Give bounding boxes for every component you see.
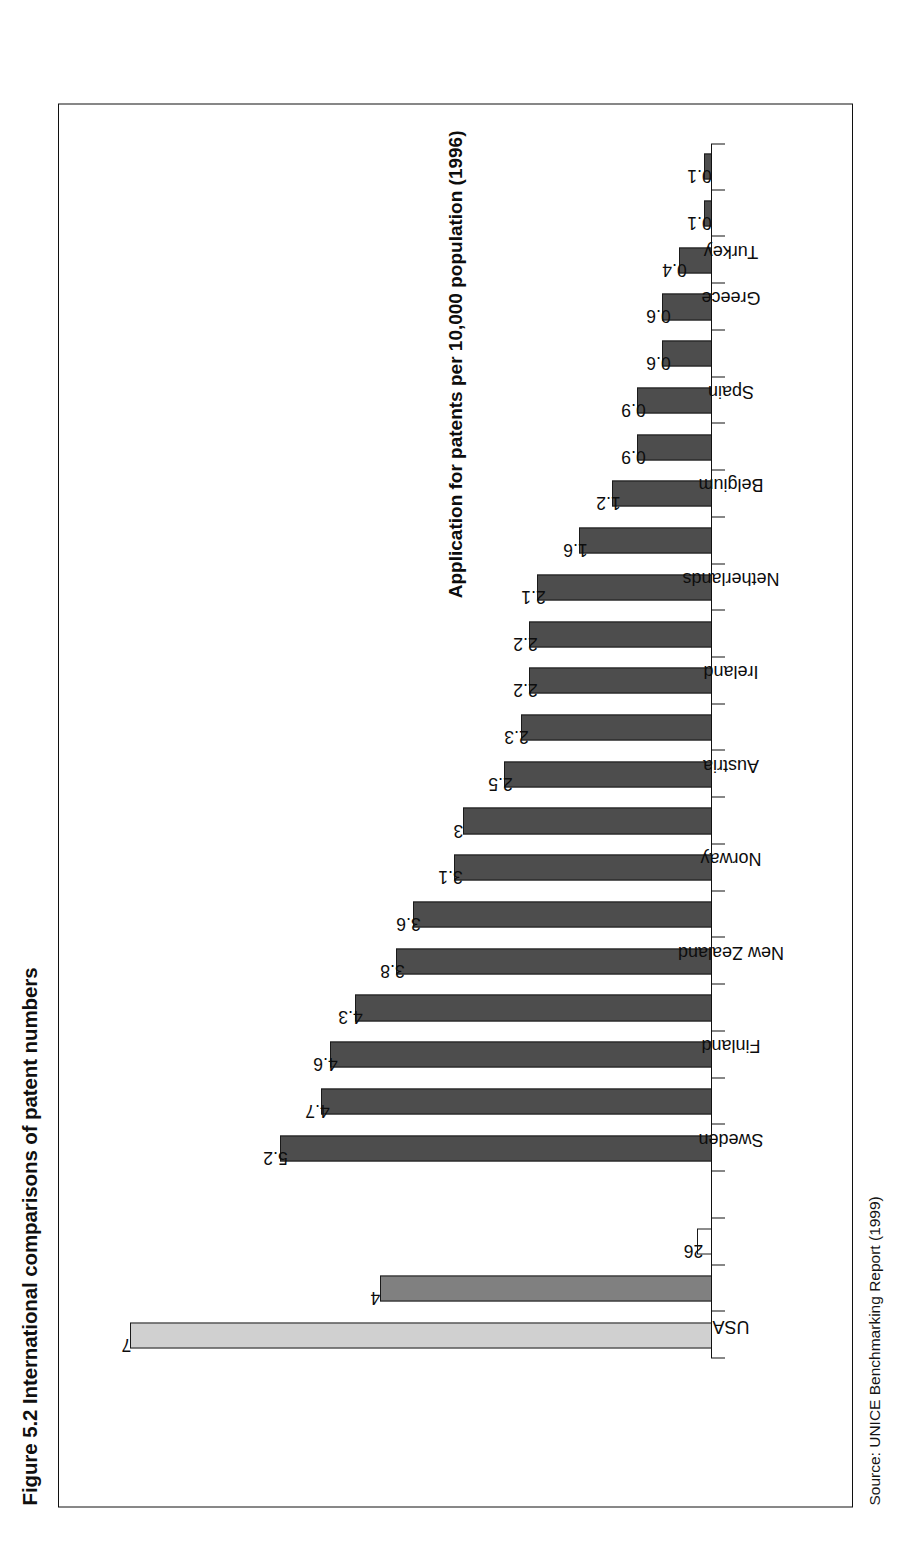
bar-value-label: 4.6 <box>314 1054 338 1072</box>
x-axis-ticks <box>712 143 726 1358</box>
category-label: New Zealand <box>678 943 784 961</box>
category-label: Belgium <box>698 475 763 493</box>
bar[interactable]: 1.6 <box>579 527 712 553</box>
bar-slot: 5.2 <box>97 1124 712 1171</box>
bar[interactable]: 3 <box>463 807 712 833</box>
bar-value-label: 2.1 <box>521 587 545 605</box>
bar-slot: 0.4 <box>97 236 712 283</box>
bar[interactable]: 2.3 <box>521 714 712 740</box>
category-label: Sweden <box>698 1130 763 1148</box>
bar-slot: 0.9 <box>97 377 712 424</box>
bar-slot: 2.3 <box>97 704 712 751</box>
bar-slot: 4.3 <box>97 984 712 1031</box>
bar[interactable]: 3.6 <box>413 901 712 927</box>
bar-slot: 3.6 <box>97 891 712 938</box>
category-slot: Ireland <box>727 657 847 704</box>
bar[interactable]: 2.2 <box>529 667 712 693</box>
bar-value-label: 2.2 <box>513 634 537 652</box>
category-slot: Austria <box>727 750 847 797</box>
bar-slot: 1.2 <box>97 470 712 517</box>
bar[interactable]: 2.5 <box>504 761 712 787</box>
bar[interactable]: 0.9 <box>637 387 712 413</box>
bar-slot: 3.8 <box>97 937 712 984</box>
category-slot <box>727 143 847 190</box>
bar-value-label: 3 <box>454 821 464 839</box>
bar-value-label: 26 <box>683 1241 702 1259</box>
bar-slot: 7 <box>97 1311 712 1358</box>
plot-area: 74265.24.74.64.33.83.63.132.52.32.22.22.… <box>97 143 712 1358</box>
bar-slot: 26 <box>97 1218 712 1265</box>
bar-value-label: 0.9 <box>621 400 645 418</box>
x-axis-tick <box>712 1171 726 1218</box>
category-slot: Greece <box>727 283 847 330</box>
category-slot: Sweden <box>727 1124 847 1171</box>
bar[interactable]: 0.6 <box>662 340 712 366</box>
bar[interactable]: 0.9 <box>637 434 712 460</box>
category-label: Greece <box>701 288 760 306</box>
x-axis-tick <box>712 704 726 751</box>
bar[interactable]: 1.2 <box>612 480 712 506</box>
bar-slot: 0.6 <box>97 283 712 330</box>
bar-slot: 3 <box>97 797 712 844</box>
bar-value-label: 3.8 <box>380 961 404 979</box>
bar-value-label: 2.3 <box>505 727 529 745</box>
category-slot <box>727 423 847 470</box>
bar[interactable]: 4 <box>380 1275 712 1301</box>
category-slot <box>727 704 847 751</box>
bar-slot <box>97 1171 712 1218</box>
bar-value-label: 4.7 <box>305 1101 329 1119</box>
bar[interactable]: 5.2 <box>280 1135 712 1161</box>
bar-value-label: 0.6 <box>646 353 670 371</box>
bar[interactable]: 4.7 <box>321 1088 712 1114</box>
bar-value-label: 4 <box>371 1288 381 1306</box>
bar-slot: 0.9 <box>97 423 712 470</box>
x-axis-tick <box>712 423 726 470</box>
category-slot: Netherlands <box>727 564 847 611</box>
bar-value-label: 7 <box>121 1335 131 1353</box>
bar-slot: 4.6 <box>97 1031 712 1078</box>
bar-slot: 2.1 <box>97 564 712 611</box>
bar[interactable]: 4.3 <box>355 994 712 1020</box>
category-slot <box>727 1218 847 1265</box>
x-axis-tick <box>712 1218 726 1265</box>
category-slot <box>727 190 847 237</box>
bar-value-label: 4.3 <box>338 1008 362 1026</box>
bar[interactable]: 3.1 <box>454 854 712 880</box>
bar-value-label: 3.6 <box>397 914 421 932</box>
x-axis-tick <box>712 1078 726 1125</box>
bar[interactable]: 3.8 <box>396 948 712 974</box>
bar-slot: 4 <box>97 1265 712 1312</box>
bar[interactable]: 26 <box>697 1228 712 1254</box>
category-label: Norway <box>700 849 761 867</box>
x-axis-tick <box>712 1265 726 1312</box>
x-axis-tick <box>712 190 726 237</box>
bar-slot: 0.1 <box>97 190 712 237</box>
bar[interactable]: 7 <box>130 1322 712 1348</box>
bar-value-label: 0.1 <box>688 166 712 184</box>
category-slot <box>727 330 847 377</box>
bar[interactable]: 2.2 <box>529 621 712 647</box>
figure-source: Source: UNICE Benchmarking Report (1999) <box>866 1196 884 1505</box>
x-axis-tick <box>712 330 726 377</box>
figure-page: Figure 5.2 International comparisons of … <box>0 0 900 1565</box>
category-slot: Spain <box>727 377 847 424</box>
figure-frame: 74265.24.74.64.33.83.63.132.52.32.22.22.… <box>58 103 853 1507</box>
bar[interactable]: 4.6 <box>330 1041 712 1067</box>
x-axis-tick <box>712 797 726 844</box>
category-slot <box>727 1171 847 1218</box>
bar-value-label: 0.6 <box>646 306 670 324</box>
category-slot: Norway <box>727 844 847 891</box>
category-label: Ireland <box>703 662 758 680</box>
category-slot: New Zealand <box>727 937 847 984</box>
category-label: Austria <box>703 756 759 774</box>
category-label: USA <box>712 1317 749 1335</box>
bar-slot: 1.6 <box>97 517 712 564</box>
x-axis-tick <box>712 984 726 1031</box>
category-label: Spain <box>708 382 754 400</box>
bar-slot: 0.6 <box>97 330 712 377</box>
category-label: Turkey <box>704 242 758 260</box>
bar-slot: 3.1 <box>97 844 712 891</box>
bar-slot: 4.7 <box>97 1078 712 1125</box>
figure-title: Figure 5.2 International comparisons of … <box>18 967 42 1505</box>
bar-value-label: 5.2 <box>264 1148 288 1166</box>
